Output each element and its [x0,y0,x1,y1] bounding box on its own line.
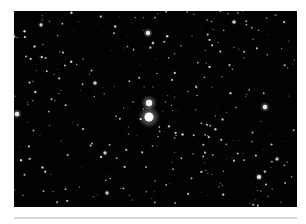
faint-star [187,93,188,94]
faint-star [178,93,179,94]
faint-star [174,152,175,153]
faint-star [213,29,214,30]
faint-star [248,89,250,91]
faint-star [132,101,134,103]
faint-star [25,146,26,147]
faint-star [276,14,277,15]
faint-star [38,13,39,14]
faint-star [108,175,109,176]
faint-star [156,145,157,146]
faint-star [143,86,144,87]
faint-star [193,14,194,15]
faint-star [276,110,277,111]
faint-star [124,49,125,50]
star-field-image [14,11,297,207]
faint-star [174,96,175,97]
faint-star [41,166,43,168]
faint-star [172,11,173,12]
faint-star [152,145,154,147]
faint-star [174,72,176,74]
faint-star [67,154,69,156]
faint-star [174,53,176,55]
faint-star [219,51,221,53]
faint-star [208,39,210,41]
faint-star [223,171,225,173]
faint-star [188,158,189,159]
faint-star [98,117,99,118]
faint-star [58,77,60,79]
faint-star [138,77,140,79]
faint-star [209,125,211,127]
faint-star [103,17,104,18]
faint-star [270,134,271,135]
faint-star [296,54,297,55]
faint-star [126,92,127,93]
faint-star [265,183,267,185]
faint-star [144,69,145,70]
faint-star [78,21,79,22]
faint-star [180,157,182,159]
faint-star [23,30,25,32]
faint-star [162,174,163,175]
faint-star [154,47,155,48]
faint-star [140,65,141,66]
faint-star [251,27,253,29]
faint-star [292,63,293,64]
faint-star [65,188,67,190]
faint-star [177,111,178,112]
bright-star [263,105,267,109]
faint-star [207,135,208,136]
faint-star [25,142,26,143]
faint-star [113,32,115,34]
faint-star [207,195,208,196]
faint-star [281,48,282,49]
faint-star [196,37,197,38]
faint-star [125,130,126,131]
faint-star [285,188,286,189]
faint-star [125,149,127,151]
faint-star [158,126,160,128]
faint-star [57,69,58,70]
faint-star [128,133,129,134]
faint-star [91,70,93,72]
faint-star [172,168,174,170]
faint-star [242,153,243,154]
faint-star [188,56,189,57]
faint-star [219,183,220,184]
faint-star [274,14,275,15]
faint-star [271,167,272,168]
faint-star [117,75,118,76]
faint-star [200,171,202,173]
faint-star [116,157,118,159]
faint-star [180,45,182,47]
faint-star [270,143,272,145]
faint-star [250,181,251,182]
faint-star [260,190,261,191]
faint-star [208,136,210,138]
faint-star [193,134,195,136]
faint-star [255,155,257,157]
faint-star [171,162,172,163]
faint-star [77,124,78,125]
faint-star [271,188,272,189]
bright-star [106,192,109,195]
faint-star [42,15,43,16]
faint-star [202,144,204,146]
faint-star [50,174,51,175]
bright-star [40,24,43,27]
faint-star [133,49,135,51]
faint-star [65,104,67,106]
faint-star [76,81,77,82]
faint-star [263,181,264,182]
faint-star [192,153,194,155]
faint-star [283,141,284,142]
faint-star [71,96,72,97]
faint-star [24,174,26,176]
faint-star [90,145,92,147]
faint-star [231,148,232,149]
faint-star [122,188,124,190]
faint-star [237,152,239,154]
faint-star [283,21,285,23]
faint-star [207,34,209,36]
faint-star [29,88,30,89]
